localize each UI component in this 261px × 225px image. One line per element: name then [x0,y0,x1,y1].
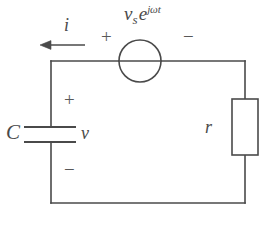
source-plus-sign: + [101,27,112,46]
resistor-label: r [205,118,212,136]
source-minus-sign: − [183,27,194,46]
current-label: i [64,16,69,34]
source-exponential-base: e [139,3,147,24]
capacitor-plus-sign: + [64,90,75,109]
circuit-diagram: vsejωt i C v r + − + − [0,0,261,225]
source-exponent: jωt [147,3,161,15]
current-arrow-head [40,41,51,50]
source-label: vsejωt [124,4,161,26]
capacitor-voltage-label: v [81,124,89,142]
circuit-schematic-svg [0,0,261,225]
resistor-symbol [232,99,258,155]
capacitor-label: C [6,122,20,143]
capacitor-minus-sign: − [64,160,75,179]
source-subscript: s [132,12,137,27]
